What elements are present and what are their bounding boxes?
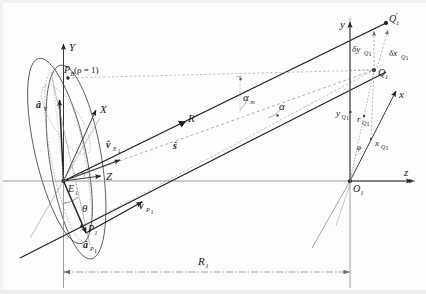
angle-theta-label: θ bbox=[82, 202, 88, 214]
svg-text:y: y bbox=[335, 108, 340, 118]
axis-Z-label: Z bbox=[106, 170, 113, 182]
svg-text:δx: δx bbox=[389, 48, 397, 58]
point-Q1-prime-label: Q ′ 1 bbox=[389, 12, 399, 26]
svg-text:1: 1 bbox=[95, 230, 98, 236]
svg-text:α: α bbox=[243, 91, 249, 103]
svg-text:1: 1 bbox=[406, 55, 409, 61]
y-Q1-tick bbox=[349, 111, 351, 113]
svg-text:1: 1 bbox=[361, 190, 364, 196]
svg-text:1: 1 bbox=[396, 20, 399, 26]
svg-text:v̂: v̂ bbox=[139, 200, 144, 211]
alpha-vertex-dot bbox=[276, 114, 278, 116]
point-Q1-prime-marker bbox=[384, 21, 388, 25]
svg-text:1: 1 bbox=[369, 51, 372, 57]
svg-text:1: 1 bbox=[206, 263, 209, 269]
svg-text:â: â bbox=[83, 239, 88, 250]
axis-x-label: x bbox=[398, 88, 404, 100]
svg-text:P: P bbox=[63, 64, 70, 75]
svg-text:P: P bbox=[145, 207, 150, 213]
range-R-label: R bbox=[187, 112, 195, 124]
svg-text:δy: δy bbox=[352, 44, 360, 54]
geometry-diagram: Y X Z E 1 â Y â P 1 v̂ E bbox=[0, 0, 426, 294]
svg-text:O: O bbox=[353, 183, 360, 194]
scan-edge-bottom bbox=[0, 290, 426, 294]
svg-text:1: 1 bbox=[346, 115, 349, 121]
svg-text:r: r bbox=[357, 114, 361, 124]
scan-edge-left bbox=[0, 0, 3, 294]
svg-text:1: 1 bbox=[151, 209, 154, 215]
point-PB-label: P B (ρ = 1) bbox=[63, 64, 99, 77]
svg-text:m: m bbox=[251, 99, 256, 105]
svg-text:1: 1 bbox=[367, 121, 370, 127]
svg-text:P: P bbox=[87, 223, 94, 234]
angle-phi-label: φ bbox=[357, 143, 362, 152]
svg-text:R: R bbox=[197, 255, 205, 267]
svg-text:(ρ = 1): (ρ = 1) bbox=[74, 65, 99, 75]
svg-text:1: 1 bbox=[386, 145, 389, 151]
svg-text:â: â bbox=[36, 99, 41, 110]
r-Q1-tick bbox=[363, 115, 365, 117]
axis-z-label: z bbox=[403, 166, 409, 178]
svg-text:1: 1 bbox=[94, 248, 97, 254]
svg-text:1: 1 bbox=[385, 74, 388, 80]
axis-X-label: X bbox=[99, 103, 108, 115]
angle-alpha-label: α bbox=[279, 100, 285, 112]
scan-edge-top bbox=[0, 0, 426, 3]
svg-text:x: x bbox=[374, 138, 379, 148]
svg-text:v̂: v̂ bbox=[106, 139, 111, 150]
svg-text:E: E bbox=[112, 146, 117, 152]
axis-y-label: y bbox=[339, 18, 345, 30]
